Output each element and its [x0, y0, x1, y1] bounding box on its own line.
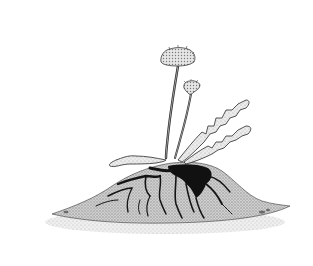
- dandelion-illustration: [0, 0, 313, 266]
